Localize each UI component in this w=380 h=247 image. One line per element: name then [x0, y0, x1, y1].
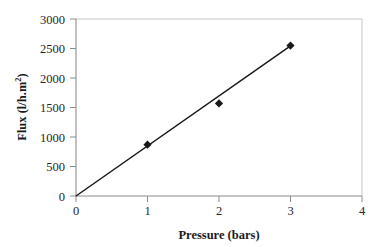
y-tick-label-3000: 3000 [40, 13, 65, 27]
data-point-2 [215, 99, 223, 107]
flux-vs-pressure-chart: 0 500 1000 1500 2000 2500 3000 0 1 2 3 4 [0, 0, 380, 247]
y-tick-label-500: 500 [46, 160, 65, 174]
chart-canvas: 0 500 1000 1500 2000 2500 3000 0 1 2 3 4 [0, 0, 380, 247]
y-axis-title-close: ) [15, 73, 29, 77]
x-tick-label-2: 2 [216, 204, 222, 218]
y-tick-label-1500: 1500 [40, 101, 65, 115]
x-tick-label-3: 3 [287, 204, 293, 218]
y-tick-label-0: 0 [59, 190, 65, 204]
x-tick-label-1: 1 [144, 204, 150, 218]
x-axis-title: Pressure (bars) [178, 228, 259, 242]
x-axis-ticks [76, 196, 362, 202]
y-axis-title-main: Flux (l/h.m [15, 81, 29, 141]
y-tick-label-2500: 2500 [40, 42, 65, 56]
y-axis-title: Flux (l/h.m2) [13, 73, 29, 140]
x-tick-label-4: 4 [359, 204, 366, 218]
x-tick-label-0: 0 [73, 204, 79, 218]
y-tick-label-2000: 2000 [40, 72, 65, 86]
y-tick-label-1000: 1000 [40, 131, 65, 145]
trend-line [76, 46, 291, 196]
y-axis-ticks [70, 19, 76, 196]
